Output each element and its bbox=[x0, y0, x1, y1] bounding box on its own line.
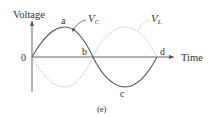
vl-label: VL bbox=[151, 12, 162, 26]
caption: (e) bbox=[97, 104, 107, 114]
y-axis-label: Voltage bbox=[13, 9, 45, 20]
point-a-label: a bbox=[61, 15, 66, 26]
x-axis-label: Time bbox=[181, 52, 203, 63]
point-b-label: b bbox=[82, 46, 87, 57]
vc-label: VC bbox=[88, 12, 100, 26]
vc-leader bbox=[73, 20, 86, 30]
voltage-time-diagram: Voltage Time 0 a b c d VC VL (e) bbox=[0, 0, 214, 117]
vl-leader bbox=[138, 20, 150, 30]
x-axis-arrow-icon bbox=[169, 55, 175, 59]
y-axis-arrow-icon bbox=[30, 20, 34, 26]
origin-label: 0 bbox=[21, 52, 26, 63]
point-d-label: d bbox=[160, 46, 165, 57]
point-c-label: c bbox=[120, 88, 125, 99]
